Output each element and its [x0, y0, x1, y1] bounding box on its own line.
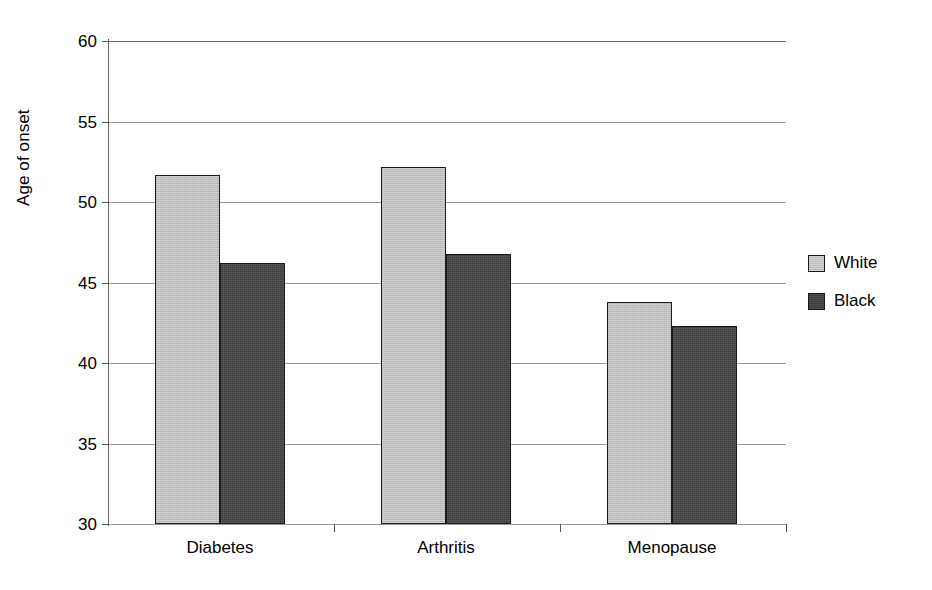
y-axis-tick — [102, 202, 109, 203]
x-axis-tick — [560, 524, 561, 532]
y-axis-tick — [102, 363, 109, 364]
y-axis-tick-label: 50 — [78, 194, 97, 211]
legend-label-white: White — [834, 253, 877, 273]
legend-item-white: White — [808, 244, 877, 282]
plot-area: 30354045505560 — [108, 41, 786, 524]
bar-menopause-black — [672, 326, 737, 524]
y-axis-tick-label: 60 — [78, 33, 97, 50]
x-axis-category-label: Diabetes — [186, 538, 253, 558]
y-axis-tick — [102, 41, 109, 42]
y-axis-tick-label: 55 — [78, 113, 97, 130]
y-axis-tick — [102, 444, 109, 445]
y-axis-tick — [102, 122, 109, 123]
bar-arthritis-white — [381, 167, 446, 524]
y-axis-title: Age of onset — [14, 0, 40, 206]
bar-arthritis-black — [446, 254, 511, 524]
legend-swatch-black-icon — [808, 293, 825, 310]
x-axis-category-label: Menopause — [628, 538, 717, 558]
y-axis-tick-label: 45 — [78, 274, 97, 291]
legend-swatch-white-icon — [808, 255, 825, 272]
y-axis-tick-label: 35 — [78, 435, 97, 452]
x-axis-tick — [334, 524, 335, 532]
legend-label-black: Black — [834, 291, 876, 311]
gridline — [108, 122, 786, 123]
legend-item-black: Black — [808, 282, 877, 320]
bar-menopause-white — [607, 302, 672, 524]
y-axis-tick-label: 30 — [78, 516, 97, 533]
x-axis-category-label: Arthritis — [417, 538, 475, 558]
bar-diabetes-white — [155, 175, 220, 524]
gridline — [108, 524, 786, 525]
x-axis-tick-end — [786, 524, 787, 532]
legend: White Black — [808, 244, 877, 320]
y-axis-tick — [102, 524, 109, 525]
bar-chart: Age of onset 30354045505560 White Black … — [0, 0, 932, 590]
bar-diabetes-black — [220, 263, 285, 524]
y-axis-tick — [102, 283, 109, 284]
gridline — [108, 41, 786, 42]
y-axis-tick-label: 40 — [78, 355, 97, 372]
